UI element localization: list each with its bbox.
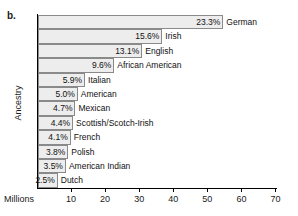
bar-category-label: French — [71, 133, 100, 142]
bar-value-label: 5.0% — [55, 90, 76, 99]
bar-row: 15.6%Irish — [38, 29, 181, 43]
bar-row: 5.0%American — [38, 87, 117, 101]
bar-category-label: English — [142, 47, 173, 56]
bar-category-label: African American — [114, 61, 181, 70]
bar: 5.0% — [38, 87, 78, 101]
y-axis-title: Ancestry — [13, 68, 23, 138]
bar-value-label: 4.4% — [51, 119, 72, 128]
bar-row: 3.5%American Indian — [38, 159, 130, 173]
bar: 13.1% — [38, 44, 142, 58]
bar-value-label: 15.6% — [135, 32, 161, 41]
x-tick — [139, 188, 140, 192]
bar-value-label: 23.3% — [196, 18, 222, 27]
bar-value-label: 9.6% — [92, 61, 113, 70]
bar-value-label: 3.5% — [44, 162, 65, 171]
bar-value-label: 13.1% — [115, 47, 141, 56]
bar: 4.4% — [38, 116, 73, 130]
bar: 3.5% — [38, 159, 66, 173]
bar-category-label: Scottish/Scotch-Irish — [73, 119, 153, 128]
x-tick-label: 10 — [59, 194, 83, 204]
bar-row: 2.5%Dutch — [38, 173, 83, 187]
x-tick — [173, 188, 174, 192]
bar: 5.9% — [38, 73, 85, 87]
bar: 15.6% — [38, 29, 162, 43]
x-tick-label: 40 — [161, 194, 185, 204]
x-tick — [275, 188, 276, 192]
bar-row: 4.4%Scottish/Scotch-Irish — [38, 116, 154, 130]
x-tick — [241, 188, 242, 192]
bar-row: 13.1%English — [38, 44, 173, 58]
x-tick — [105, 188, 106, 192]
bar-row: 3.8%Polish — [38, 145, 94, 159]
bar-row: 4.7%Mexican — [38, 101, 110, 115]
x-tick — [71, 188, 72, 192]
x-axis-title: Millions — [4, 194, 34, 204]
bar: 2.5% — [38, 173, 58, 187]
bar-value-label: 3.8% — [46, 148, 67, 157]
x-tick — [207, 188, 208, 192]
bar-category-label: American — [78, 90, 117, 99]
bar-category-label: German — [223, 18, 257, 27]
bar-category-label: Mexican — [75, 104, 110, 113]
x-tick-label: 70 — [263, 194, 287, 204]
bar: 4.7% — [38, 101, 75, 115]
bar-row: 4.1%French — [38, 130, 100, 144]
x-tick-label: 20 — [93, 194, 117, 204]
bar: 4.1% — [38, 130, 71, 144]
bar-row: 5.9%Italian — [38, 73, 111, 87]
plot-area: 23.3%German15.6%Irish13.1%English9.6%Afr… — [37, 14, 277, 189]
bar-row: 9.6%African American — [38, 58, 182, 72]
bar-category-label: Irish — [162, 32, 181, 41]
bar-category-label: Italian — [85, 76, 111, 85]
bar: 9.6% — [38, 58, 114, 72]
panel-letter-label: b. — [7, 10, 16, 21]
bar-row: 23.3%German — [38, 15, 257, 29]
bar-value-label: 2.5% — [35, 176, 56, 185]
bar: 3.8% — [38, 145, 68, 159]
bar-category-label: Polish — [68, 148, 94, 157]
bar: 23.3% — [38, 15, 223, 29]
bar-series: 23.3%German15.6%Irish13.1%English9.6%Afr… — [38, 15, 277, 188]
bar-value-label: 4.1% — [48, 133, 69, 142]
figure-panel-b: b. Ancestry 23.3%German15.6%Irish13.1%En… — [0, 0, 298, 216]
bar-category-label: Dutch — [58, 176, 83, 185]
x-tick-label: 30 — [127, 194, 151, 204]
x-tick-label: 50 — [195, 194, 219, 204]
bar-value-label: 5.9% — [63, 76, 84, 85]
bar-value-label: 4.7% — [53, 104, 74, 113]
bar-category-label: American Indian — [66, 162, 130, 171]
x-tick-label: 60 — [229, 194, 253, 204]
